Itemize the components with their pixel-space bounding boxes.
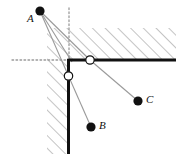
point-a-label: A [27,13,34,24]
ray-side-point-to-b [69,76,92,127]
point-c-dot [133,96,142,105]
point-b-dot [86,122,95,131]
reflection-diagram: A B C [0,0,176,154]
point-a-dot [35,6,44,15]
top-reflection-point [86,56,94,64]
side-reflection-point [64,72,72,80]
ray-top-point-to-c [90,60,138,101]
point-c-label: C [146,94,153,105]
point-b-label: B [99,120,106,131]
